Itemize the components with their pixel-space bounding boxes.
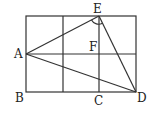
label-d: D xyxy=(137,91,147,105)
segment-ad xyxy=(26,54,136,92)
label-f: F xyxy=(89,40,97,54)
label-b: B xyxy=(15,91,24,105)
label-a: A xyxy=(13,47,23,61)
geometry-diagram: E A F B C D xyxy=(0,0,156,113)
grid xyxy=(26,16,136,92)
label-e: E xyxy=(93,2,102,16)
label-c: C xyxy=(94,94,103,108)
